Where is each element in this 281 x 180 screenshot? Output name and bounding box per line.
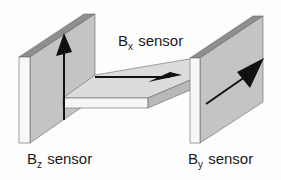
by-sensor-label: By sensor: [188, 150, 253, 170]
bx-sensor-label: Bx sensor: [118, 32, 183, 52]
sensor-diagram: Bx sensor Bz sensor By sensor: [0, 0, 281, 180]
bz-sensor-label: Bz sensor: [27, 150, 92, 170]
bz-sensor-panel: [19, 14, 95, 143]
